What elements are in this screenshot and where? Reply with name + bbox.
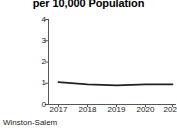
x-tick-label-2021: 2021 — [164, 105, 177, 115]
plot-area — [0, 14, 177, 109]
x-tick-label-2017: 2017 — [50, 105, 68, 115]
x-tick-label-2020: 2020 — [137, 105, 155, 115]
x-axis-tick-labels: 2017 2018 2019 2020 2021 — [48, 105, 177, 117]
y-axis-tick-labels: 0 1 2 3 4 — [28, 14, 46, 109]
x-tick-label-2019: 2019 — [108, 105, 126, 115]
chart-title: per 10,000 Population — [0, 0, 177, 10]
y-tick-label-1: 1 — [42, 78, 46, 88]
y-tick-label-0: 0 — [42, 100, 46, 110]
y-tick-label-2: 2 — [42, 57, 46, 67]
y-tick-label-3: 3 — [42, 36, 46, 46]
axis-lines — [48, 19, 176, 105]
x-tick-label-2018: 2018 — [79, 105, 97, 115]
y-tick-label-4: 4 — [42, 15, 46, 25]
line-chart-svg — [0, 14, 177, 109]
data-series-line-winston-salem — [59, 82, 173, 85]
source-caption: Winston-Salem — [3, 118, 57, 128]
chart-figure: per 10,000 Population — [0, 0, 177, 132]
